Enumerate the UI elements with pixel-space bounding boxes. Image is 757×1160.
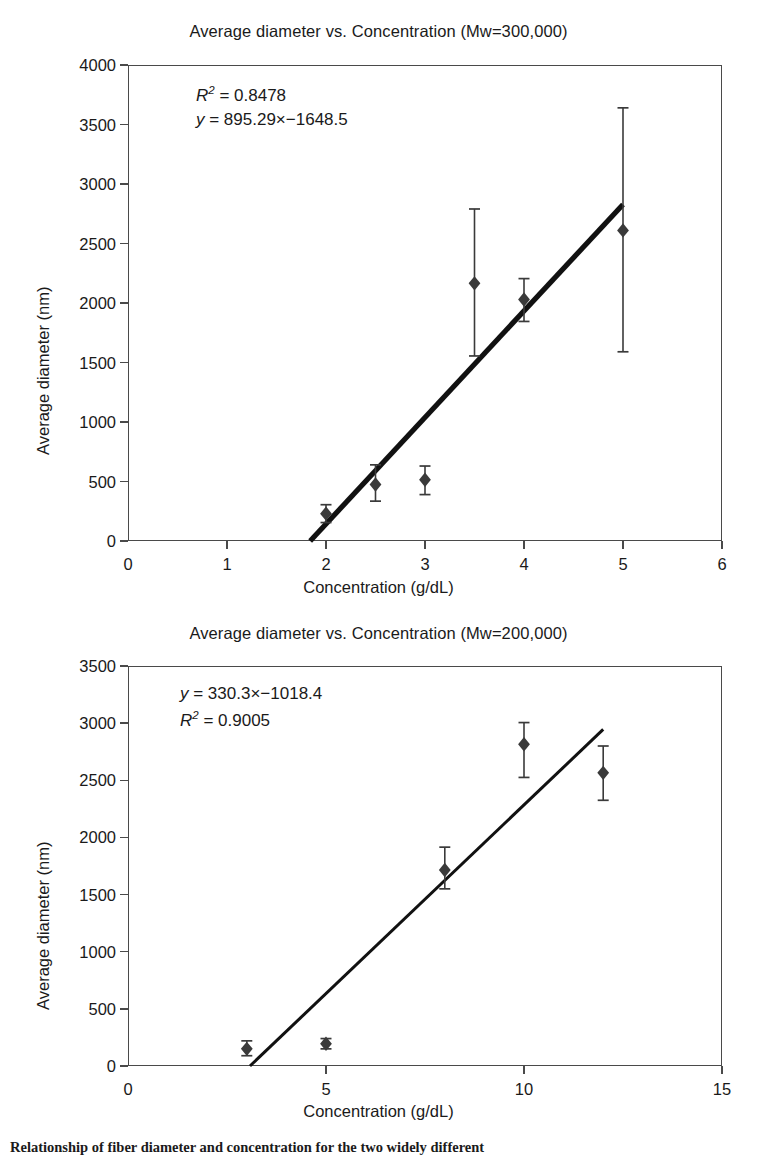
data-point-group <box>597 746 609 800</box>
y-tick-mark <box>120 302 128 303</box>
data-point-marker <box>518 737 530 751</box>
chart-panel-mw200000: Average diameter vs. Concentration (Mw=2… <box>0 610 757 1110</box>
x-tick-label: 2 <box>321 555 330 574</box>
y-tick-label: 2000 <box>32 828 116 847</box>
y-tick-mark <box>120 64 128 65</box>
data-point-group <box>370 465 382 501</box>
y-tick-label: 2500 <box>32 771 116 790</box>
x-tick-label: 4 <box>519 555 528 574</box>
x-axis-title: Concentration (g/dL) <box>0 1102 757 1121</box>
data-point-marker <box>597 766 609 780</box>
x-tick-mark <box>523 541 524 549</box>
y-tick-label: 3000 <box>32 714 116 733</box>
trendline <box>250 729 603 1066</box>
x-tick-mark <box>424 541 425 549</box>
y-tick-label: 1500 <box>32 885 116 904</box>
data-point-group <box>241 1041 253 1056</box>
x-tick-label: 6 <box>717 555 726 574</box>
figure-caption: Relationship of fiber diameter and conce… <box>0 1138 757 1160</box>
y-tick-label: 500 <box>32 472 116 491</box>
y-tick-mark <box>120 951 128 952</box>
y-tick-label: 3000 <box>32 175 116 194</box>
y-tick-label: 0 <box>32 1057 116 1076</box>
data-point-group <box>469 209 481 356</box>
x-tick-mark <box>622 541 623 549</box>
data-point-group <box>320 1037 332 1051</box>
y-tick-label: 0 <box>32 532 116 551</box>
y-tick-label: 2500 <box>32 234 116 253</box>
y-tick-mark <box>120 665 128 666</box>
data-point-group <box>419 466 431 495</box>
y-tick-label: 3500 <box>32 115 116 134</box>
y-tick-mark <box>120 894 128 895</box>
y-tick-mark <box>120 243 128 244</box>
y-tick-label: 2000 <box>32 294 116 313</box>
y-tick-mark <box>120 421 128 422</box>
x-tick-label: 3 <box>420 555 429 574</box>
data-point-group <box>518 723 530 778</box>
data-point-marker <box>241 1042 253 1056</box>
y-tick-mark <box>120 481 128 482</box>
x-tick-mark <box>325 541 326 549</box>
y-tick-label: 1500 <box>32 353 116 372</box>
data-point-group <box>617 108 629 352</box>
data-point-marker <box>419 473 431 487</box>
y-tick-label: 3500 <box>32 657 116 676</box>
y-tick-mark <box>120 1008 128 1009</box>
x-axis-title: Concentration (g/dL) <box>0 578 757 597</box>
y-tick-mark <box>120 722 128 723</box>
x-tick-label: 10 <box>515 1080 533 1099</box>
x-tick-label: 0 <box>123 1080 132 1099</box>
y-tick-mark <box>120 780 128 781</box>
data-point-marker <box>617 223 629 237</box>
chart-canvas <box>0 610 757 1110</box>
y-tick-label: 4000 <box>32 56 116 75</box>
y-tick-mark <box>120 540 128 541</box>
x-tick-mark <box>523 1066 524 1074</box>
y-tick-mark <box>120 1065 128 1066</box>
y-tick-label: 500 <box>32 999 116 1018</box>
y-tick-mark <box>120 183 128 184</box>
y-tick-label: 1000 <box>32 942 116 961</box>
x-tick-label: 5 <box>618 555 627 574</box>
x-tick-mark <box>721 1066 722 1074</box>
x-tick-label: 15 <box>713 1080 731 1099</box>
y-tick-mark <box>120 837 128 838</box>
x-tick-mark <box>721 541 722 549</box>
data-point-marker <box>469 276 481 290</box>
x-tick-mark <box>325 1066 326 1074</box>
trendline <box>310 204 623 541</box>
y-tick-mark <box>120 362 128 363</box>
x-tick-label: 1 <box>222 555 231 574</box>
x-tick-label: 0 <box>123 555 132 574</box>
chart-panel-mw300000: Average diameter vs. Concentration (Mw=3… <box>0 0 757 610</box>
x-tick-mark <box>226 541 227 549</box>
x-tick-label: 5 <box>321 1080 330 1099</box>
y-tick-mark <box>120 124 128 125</box>
y-tick-label: 1000 <box>32 413 116 432</box>
data-point-marker <box>370 477 382 491</box>
